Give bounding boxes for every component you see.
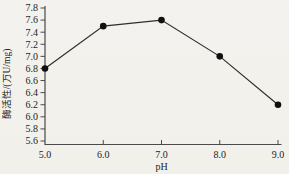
y-tick-label: 7.0 bbox=[26, 51, 39, 62]
y-tick-label: 7.8 bbox=[26, 2, 39, 13]
y-tick-label: 5.8 bbox=[26, 123, 39, 134]
y-tick-label: 6.0 bbox=[26, 111, 39, 122]
data-point bbox=[275, 101, 282, 108]
x-tick-label: 8.0 bbox=[214, 149, 227, 160]
y-tick-label: 6.4 bbox=[26, 87, 39, 98]
ph-enzyme-activity-line-chart: 5.65.86.06.26.46.66.87.07.27.47.67.85.06… bbox=[0, 0, 289, 174]
y-tick-label: 6.8 bbox=[26, 63, 39, 74]
x-tick-label: 9.0 bbox=[272, 149, 285, 160]
y-tick-label: 6.2 bbox=[26, 99, 39, 110]
x-tick-label: 7.0 bbox=[155, 149, 168, 160]
y-axis-title: 酶活性/(万U/mg) bbox=[1, 49, 13, 120]
data-point bbox=[216, 53, 223, 60]
x-tick-label: 6.0 bbox=[97, 149, 110, 160]
data-point bbox=[100, 23, 107, 30]
y-tick-label: 6.6 bbox=[26, 75, 39, 86]
chart-canvas: 5.65.86.06.26.46.66.87.07.27.47.67.85.06… bbox=[0, 0, 289, 174]
data-point bbox=[158, 17, 165, 24]
y-tick-label: 7.4 bbox=[26, 27, 39, 38]
data-point bbox=[42, 65, 49, 72]
axes-lines bbox=[45, 6, 282, 145]
x-axis-title: pH bbox=[155, 161, 167, 172]
y-tick-label: 7.6 bbox=[26, 14, 39, 25]
data-line bbox=[45, 20, 278, 105]
x-tick-label: 5.0 bbox=[39, 149, 52, 160]
y-tick-label: 5.6 bbox=[26, 135, 39, 146]
y-tick-label: 7.2 bbox=[26, 39, 39, 50]
